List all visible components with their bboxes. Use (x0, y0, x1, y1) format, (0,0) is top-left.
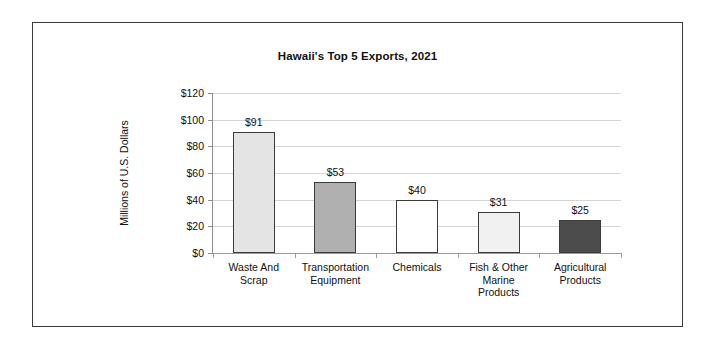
x-axis-tick-mark (213, 253, 214, 258)
bar-value-label: $40 (408, 184, 426, 196)
y-tick-label: $120 (181, 87, 204, 99)
y-tick-label: $60 (186, 167, 204, 179)
plot-inner: $0$20$40$60$80$100$120 $91$53$40$31$25 W… (213, 93, 621, 253)
y-tick-label: $0 (192, 247, 204, 259)
gridline (213, 93, 621, 94)
bar: $25 (559, 220, 601, 253)
x-axis-category-label: Agricultural Products (542, 261, 618, 286)
plot-area: $0$20$40$60$80$100$120 $91$53$40$31$25 W… (213, 93, 621, 253)
bar-value-label: $91 (245, 116, 263, 128)
x-axis-tick-mark (621, 253, 622, 258)
y-tick-label: $100 (181, 114, 204, 126)
y-axis-title: Millions of U.S. Dollars (117, 89, 131, 257)
chart-frame: Hawaii's Top 5 Exports, 2021 Millions of… (32, 22, 683, 327)
bar-value-label: $25 (571, 204, 589, 216)
x-axis-tick-mark (458, 253, 459, 258)
y-tick-mark (208, 173, 213, 174)
x-axis-category-label: Fish & Other Marine Products (461, 261, 537, 299)
bar: $31 (478, 212, 520, 253)
y-tick-label: $40 (186, 194, 204, 206)
y-tick-mark (208, 146, 213, 147)
x-axis-tick-mark (376, 253, 377, 258)
x-axis-category-label: Chemicals (379, 261, 455, 274)
bar: $40 (396, 200, 438, 253)
y-tick-mark (208, 226, 213, 227)
bar: $53 (314, 182, 356, 253)
chart-title: Hawaii's Top 5 Exports, 2021 (33, 50, 682, 62)
y-tick-mark (208, 93, 213, 94)
x-axis-baseline (213, 253, 621, 254)
bar-value-label: $31 (490, 196, 508, 208)
y-tick-label: $80 (186, 140, 204, 152)
x-axis-category-label: Waste And Scrap (216, 261, 292, 286)
x-axis-tick-mark (539, 253, 540, 258)
bar-value-label: $53 (327, 166, 345, 178)
y-tick-label: $20 (186, 220, 204, 232)
y-tick-mark (208, 200, 213, 201)
x-axis-category-label: Transportation Equipment (298, 261, 374, 286)
y-axis-title-text: Millions of U.S. Dollars (118, 120, 130, 226)
gridline (213, 120, 621, 121)
x-axis-tick-mark (295, 253, 296, 258)
y-tick-mark (208, 120, 213, 121)
bar: $91 (233, 132, 275, 253)
